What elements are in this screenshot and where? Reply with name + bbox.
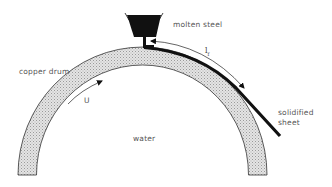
length-subscript: f (208, 51, 210, 57)
contact-length-label: lf (205, 46, 209, 59)
solidified-sheet-label-line1: solidified (278, 108, 314, 117)
velocity-label: U (84, 96, 90, 105)
strip-casting-diagram: molten steel lf copper drum U water soli… (0, 0, 332, 187)
tundish (125, 13, 163, 48)
diagram-canvas (0, 0, 332, 187)
molten-steel-label: molten steel (173, 20, 222, 29)
water-label: water (133, 134, 155, 143)
solidified-sheet-label-line2: sheet (278, 118, 300, 127)
copper-drum-label: copper drum (19, 67, 69, 76)
